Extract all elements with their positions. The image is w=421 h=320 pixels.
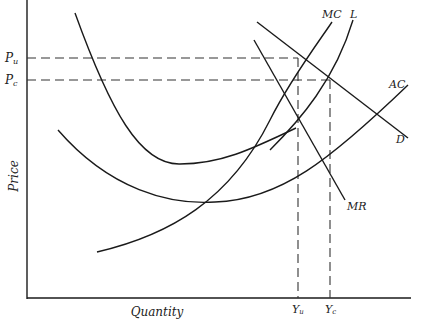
l-curve [270, 20, 353, 150]
cost-demand-diagram: Price Quantity Pu Pc Yu Yc MC L AC D MR [0, 0, 421, 320]
yu-label: Yu [292, 303, 304, 316]
x-axis-label: Quantity [131, 305, 184, 319]
mc-label: MC [321, 8, 342, 21]
marginal-cost-curve [97, 22, 332, 252]
pc-label: Pc [4, 73, 18, 88]
short-run-cost-curve [75, 13, 296, 164]
pu-label: Pu [4, 51, 18, 66]
yc-label: Yc [325, 303, 336, 316]
mr-label: MR [346, 200, 367, 213]
l-label: L [349, 8, 357, 21]
ac-label: AC [388, 78, 406, 91]
average-cost-curve [58, 85, 408, 202]
d-label: D [395, 133, 405, 146]
y-axis-label: Price [7, 160, 21, 192]
